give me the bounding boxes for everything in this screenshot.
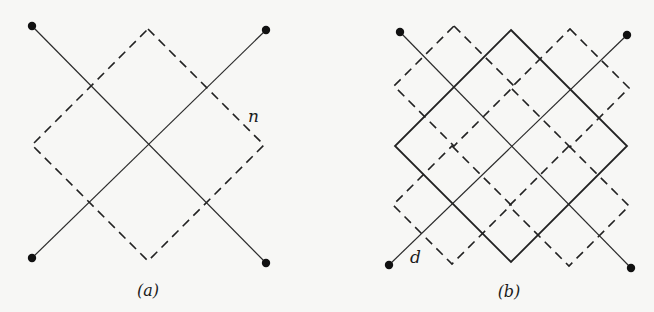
panel-b <box>385 26 635 272</box>
label-d: d <box>410 247 421 267</box>
endpoint-dot-icon <box>627 264 635 272</box>
caption-a: (a) <box>137 281 159 300</box>
caption-b: (b) <box>498 282 521 301</box>
endpoint-dot-icon <box>262 259 270 267</box>
endpoint-dot-icon <box>28 22 36 30</box>
endpoint-dot-icon <box>623 31 631 39</box>
diagonal-line-1 <box>32 30 266 258</box>
diagram-canvas: n d (a) (b) <box>0 0 654 312</box>
endpoint-dot-icon <box>396 28 404 36</box>
endpoint-dot-icon <box>385 261 393 269</box>
endpoint-dot-icon <box>28 254 36 262</box>
label-n: n <box>248 106 259 126</box>
endpoint-dot-icon <box>262 26 270 34</box>
diagonal-line-1 <box>389 35 627 265</box>
diagonal-line-0 <box>400 32 631 268</box>
panel-a <box>28 22 270 267</box>
